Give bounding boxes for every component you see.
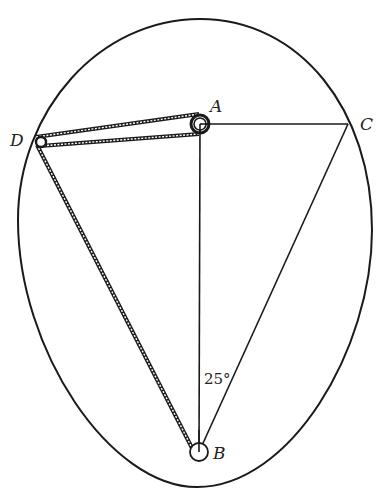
belt <box>36 114 199 448</box>
label-A: A <box>208 96 222 116</box>
diagram-canvas: A C D B 25° <box>0 0 384 502</box>
line-AB <box>199 124 200 452</box>
label-B: B <box>212 443 226 463</box>
angle-label: 25° <box>204 370 231 388</box>
line-CB <box>199 124 348 452</box>
pulley-D <box>36 137 46 147</box>
label-D: D <box>9 130 24 150</box>
label-C: C <box>360 114 373 134</box>
outer-boundary <box>18 19 372 487</box>
